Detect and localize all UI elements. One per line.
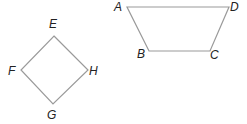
label-h: H [89,64,98,78]
square-efgh [21,36,88,104]
label-g: G [47,108,56,122]
label-d: D [230,0,239,14]
label-e: E [49,17,58,31]
trapezoid-abcd [127,7,229,51]
label-b: B [137,47,145,61]
label-f: F [8,64,16,78]
label-c: C [210,48,219,62]
label-a: A [113,0,122,14]
geometry-diagram: E F H G A D B C [0,0,247,124]
